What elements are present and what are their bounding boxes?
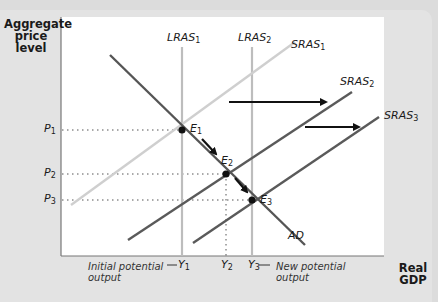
- initial-potential-output-note: Initial potential output: [88, 261, 163, 283]
- e3-label: E3: [260, 193, 272, 207]
- p2-label: P2: [44, 166, 56, 180]
- p1-label: P1: [44, 122, 56, 136]
- x-axis-label-line2: GDP: [393, 274, 433, 286]
- lras1-label: LRAS1: [167, 31, 200, 45]
- y-axis-label: Aggregate price level: [4, 18, 58, 54]
- initial-note-line2: output: [88, 272, 163, 283]
- initial-note-line1: Initial potential: [88, 261, 163, 272]
- figure-frame: Aggregate price level Real GDP LRAS1 LRA…: [0, 0, 438, 302]
- sras3-label: SRAS3: [384, 109, 418, 123]
- p3-label: P3: [44, 192, 56, 206]
- e2-label: E2: [221, 154, 233, 168]
- y3-label: Y3: [248, 258, 260, 272]
- e1-point: [178, 126, 185, 133]
- diagram-svg: [0, 0, 438, 302]
- sras2-line: [128, 92, 352, 240]
- lras2-label: LRAS2: [238, 31, 271, 45]
- new-note-line2: output: [276, 272, 345, 283]
- new-potential-output-note: New potential output: [276, 261, 345, 283]
- e2-point: [222, 170, 229, 177]
- y-axis-label-line3: level: [4, 42, 58, 54]
- ad-label: AD: [288, 229, 304, 242]
- y2-label: Y2: [221, 258, 233, 272]
- sras1-label: SRAS1: [291, 38, 325, 52]
- y1-label: Y1: [178, 258, 190, 272]
- e3-point: [248, 196, 255, 203]
- e2-e3-arrow: [235, 178, 247, 192]
- x-axis-label: Real GDP: [393, 262, 433, 286]
- sras2-label: SRAS2: [340, 75, 374, 89]
- ad-line: [110, 55, 305, 245]
- e1-label: E1: [190, 122, 202, 136]
- new-note-line1: New potential: [276, 261, 345, 272]
